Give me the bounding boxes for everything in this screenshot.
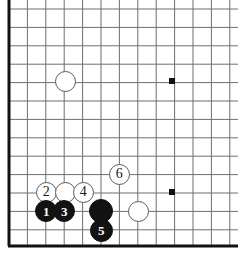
stone-layer: 246135 [0,0,238,256]
white-stone-move-4[interactable]: 4 [73,182,94,203]
white-stone-corner-4-4[interactable] [55,71,76,92]
stone-move-number: 1 [43,205,49,218]
white-stone-unnumbered-right[interactable] [128,201,149,222]
stone-move-number: 3 [61,205,67,218]
stone-move-number: 2 [43,185,50,199]
black-stone-move-5[interactable]: 5 [90,219,113,242]
stone-move-number: 5 [98,224,104,237]
black-stone-move-3[interactable]: 3 [53,200,75,222]
white-stone-move-6[interactable]: 6 [109,164,130,185]
stone-move-number: 4 [80,185,87,199]
stone-move-number: 6 [116,167,123,181]
go-board-diagram: 246135 [0,0,238,256]
